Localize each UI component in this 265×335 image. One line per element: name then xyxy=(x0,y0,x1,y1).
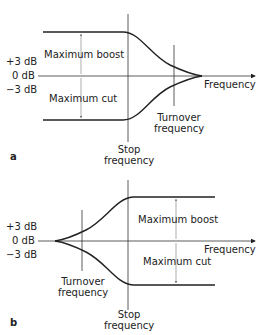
a-stop-label: Stop frequency xyxy=(104,144,154,166)
a-stop-line2: frequency xyxy=(104,155,154,166)
b-panel-letter: b xyxy=(10,317,17,328)
b-boost-label: Maximum boost xyxy=(138,214,218,225)
a-cut-label: Maximum cut xyxy=(49,93,117,104)
a-tick-plus3: +3 dB xyxy=(6,56,37,67)
b-tick-minus3: −3 dB xyxy=(6,249,37,260)
panel-a-graph xyxy=(38,14,255,142)
b-stop-line1: Stop xyxy=(104,309,154,320)
a-tick-minus3: −3 dB xyxy=(6,84,37,95)
a-axis-label: Frequency xyxy=(204,79,256,90)
shelving-eq-diagram: +3 dB 0 dB −3 dB Maximum boost Maximum c… xyxy=(0,0,265,335)
b-turnover-line1: Turnover xyxy=(58,276,108,287)
b-stop-line2: frequency xyxy=(104,320,154,331)
a-stop-line1: Stop xyxy=(104,144,154,155)
b-turnover-line2: frequency xyxy=(58,287,108,298)
b-turnover-label: Turnover frequency xyxy=(58,276,108,298)
a-turnover-line1: Turnover xyxy=(154,112,204,123)
a-turnover-line2: frequency xyxy=(154,123,204,134)
b-stop-label: Stop frequency xyxy=(104,309,154,331)
b-tick-plus3: +3 dB xyxy=(6,221,37,232)
b-cut-label: Maximum cut xyxy=(143,256,211,267)
diagram-lines xyxy=(0,0,265,335)
a-tick-0: 0 dB xyxy=(12,70,35,81)
b-axis-label: Frequency xyxy=(204,244,256,255)
a-boost-label: Maximum boost xyxy=(44,49,124,60)
a-turnover-label: Turnover frequency xyxy=(154,112,204,134)
a-panel-letter: a xyxy=(10,151,17,162)
b-tick-0: 0 dB xyxy=(12,235,35,246)
